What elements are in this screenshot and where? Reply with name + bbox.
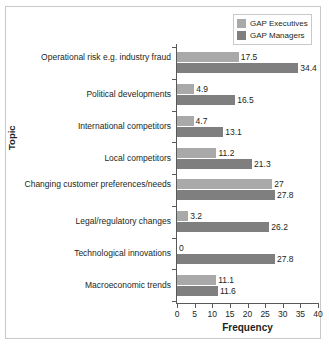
legend-swatch-gap-executives bbox=[237, 19, 246, 28]
bar-group: Technological innovations027.8 bbox=[177, 243, 318, 264]
bar-value-label: 11.1 bbox=[218, 275, 234, 285]
legend-label-gap-executives: GAP Executives bbox=[250, 19, 308, 28]
bar-value-label: 13.1 bbox=[225, 127, 242, 137]
y-axis-tick bbox=[172, 174, 177, 175]
bar-chart-figure: GAP Executives GAP Managers Topic Operat… bbox=[0, 0, 329, 350]
bar-gap-executives bbox=[177, 52, 239, 62]
x-axis-tick bbox=[283, 304, 284, 308]
category-label: Changing customer preferences/needs bbox=[11, 179, 171, 189]
x-axis-tick bbox=[212, 304, 213, 308]
y-axis-tick bbox=[172, 238, 177, 239]
category-label: Macroeconomic trends bbox=[11, 280, 171, 290]
bar-gap-managers bbox=[177, 95, 235, 105]
bar-value-label: 0 bbox=[179, 243, 184, 253]
y-axis-tick bbox=[172, 142, 177, 143]
category-label: Operational risk e.g. industry fraud bbox=[11, 52, 171, 62]
bar-value-label: 11.2 bbox=[218, 148, 234, 158]
bar-gap-executives bbox=[177, 275, 216, 285]
bar-value-label: 21.3 bbox=[254, 159, 271, 169]
bar-group: International competitors4.713.1 bbox=[177, 116, 318, 137]
bar-group: Changing customer preferences/needs2727.… bbox=[177, 179, 318, 200]
legend-item-gap-managers: GAP Managers bbox=[237, 30, 308, 41]
x-axis-tick bbox=[318, 304, 319, 308]
category-label: Local competitors bbox=[11, 153, 171, 163]
chart-legend: GAP Executives GAP Managers bbox=[233, 14, 312, 45]
bar-gap-executives bbox=[177, 148, 216, 158]
bar-value-label: 4.9 bbox=[196, 84, 208, 94]
bar-gap-executives bbox=[177, 179, 272, 189]
bar-gap-managers bbox=[177, 222, 269, 232]
category-label: Technological innovations bbox=[11, 248, 171, 258]
bar-group: Legal/regulatory changes3.226.2 bbox=[177, 211, 318, 232]
bar-gap-executives bbox=[177, 211, 188, 221]
bar-gap-executives bbox=[177, 84, 194, 94]
bar-value-label: 26.2 bbox=[271, 222, 288, 232]
x-axis-tick bbox=[300, 304, 301, 308]
bar-gap-managers bbox=[177, 63, 298, 73]
bar-value-label: 11.6 bbox=[220, 286, 236, 296]
category-label: Legal/regulatory changes bbox=[11, 216, 171, 226]
y-axis-tick bbox=[172, 111, 177, 112]
y-axis-tick bbox=[172, 47, 177, 48]
x-axis-tick-label: 40 bbox=[308, 309, 328, 319]
bar-value-label: 27.8 bbox=[277, 254, 294, 264]
y-axis-tick bbox=[172, 79, 177, 80]
x-axis-tick bbox=[230, 304, 231, 308]
x-axis-tick bbox=[265, 304, 266, 308]
bar-value-label: 17.5 bbox=[241, 52, 258, 62]
bar-value-label: 27 bbox=[274, 179, 283, 189]
bar-gap-managers bbox=[177, 254, 275, 264]
category-label: Political developments bbox=[11, 89, 171, 99]
x-axis-tick bbox=[195, 304, 196, 308]
y-axis-tick bbox=[172, 269, 177, 270]
legend-item-gap-executives: GAP Executives bbox=[237, 18, 308, 29]
bar-value-label: 34.4 bbox=[300, 63, 317, 73]
x-axis-tick bbox=[177, 304, 178, 308]
bar-gap-managers bbox=[177, 286, 218, 296]
category-label: International competitors bbox=[11, 121, 171, 131]
legend-swatch-gap-managers bbox=[237, 31, 246, 40]
bar-gap-managers bbox=[177, 190, 275, 200]
bar-value-label: 16.5 bbox=[237, 95, 254, 105]
bar-value-label: 27.8 bbox=[277, 190, 294, 200]
bar-value-label: 3.2 bbox=[190, 211, 202, 221]
bar-gap-executives bbox=[177, 116, 194, 126]
y-axis-tick bbox=[172, 301, 177, 302]
bar-group: Political developments4.916.5 bbox=[177, 84, 318, 105]
plot-area: Operational risk e.g. industry fraud17.5… bbox=[177, 47, 318, 301]
bar-group: Operational risk e.g. industry fraud17.5… bbox=[177, 52, 318, 73]
bar-gap-managers bbox=[177, 127, 223, 137]
bar-group: Local competitors11.221.3 bbox=[177, 148, 318, 169]
x-axis-tick bbox=[248, 304, 249, 308]
y-axis-tick bbox=[172, 206, 177, 207]
bar-gap-managers bbox=[177, 159, 252, 169]
x-axis-label: Frequency bbox=[177, 322, 318, 333]
bar-group: Macroeconomic trends11.111.6 bbox=[177, 275, 318, 296]
legend-label-gap-managers: GAP Managers bbox=[250, 31, 305, 40]
bar-value-label: 4.7 bbox=[196, 116, 208, 126]
